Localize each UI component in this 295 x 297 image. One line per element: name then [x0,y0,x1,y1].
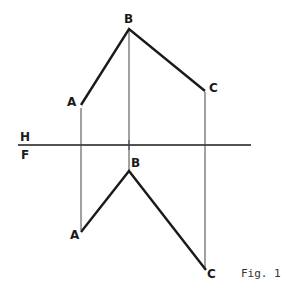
label-front-b: B [131,157,140,169]
label-front-a: A [70,229,79,241]
plane-label-h: H [20,131,30,143]
top-view-abc [81,29,205,105]
label-top-b: B [124,13,133,25]
orthographic-projection-diagram [0,0,295,297]
plane-label-f: F [21,149,29,161]
label-top-a: A [67,96,76,108]
front-view-abc [81,171,206,270]
label-top-c: C [209,82,218,94]
figure-caption: Fig. 1 [241,268,281,280]
label-front-c: C [207,268,216,280]
